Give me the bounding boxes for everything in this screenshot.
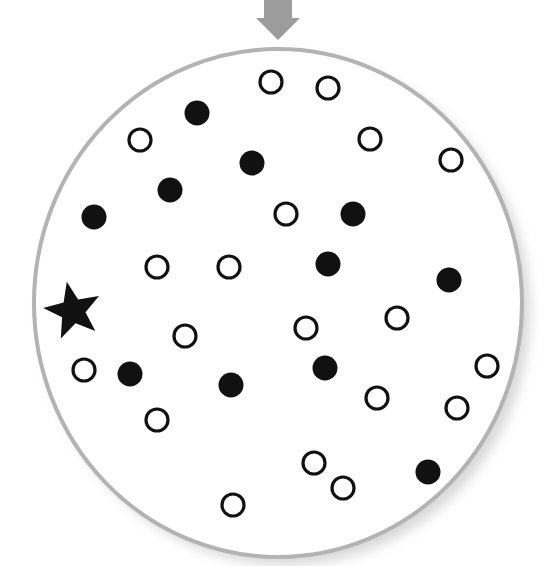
filled-dot [316, 252, 341, 277]
filled-dot [219, 373, 244, 398]
filled-dot [416, 460, 441, 485]
container-ellipse [34, 49, 522, 557]
filled-dot [82, 205, 107, 230]
filled-dot [240, 151, 265, 176]
container-ring [34, 49, 522, 557]
filled-dot [313, 356, 338, 381]
diagram-canvas [0, 0, 550, 566]
filled-dot [158, 178, 183, 203]
filled-dot [185, 101, 210, 126]
down-arrow-icon [256, 0, 300, 40]
filled-dot [437, 268, 462, 293]
filled-dot [118, 362, 143, 387]
filled-dot [341, 202, 366, 227]
down-arrow-shape [256, 0, 300, 40]
